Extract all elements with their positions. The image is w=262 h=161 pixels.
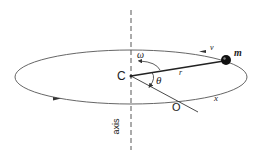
mass-label: m <box>234 48 242 58</box>
reference-point-label: O <box>172 102 181 113</box>
diagram-canvas <box>0 0 262 161</box>
circular-motion-diagram: C m r v θ ω O x axis <box>0 0 262 161</box>
x-axis-label: x <box>214 94 218 103</box>
theta-label: θ <box>156 75 161 86</box>
axis-label: axis <box>112 118 121 134</box>
omega-arc <box>140 61 160 70</box>
reference-line <box>131 76 198 112</box>
radius-line <box>131 61 224 76</box>
center-label: C <box>117 70 126 82</box>
mass-ball <box>221 55 231 65</box>
theta-arc <box>150 73 154 87</box>
radius-label: r <box>179 69 182 77</box>
center-point <box>130 75 133 78</box>
omega-label: ω <box>137 50 144 60</box>
velocity-arrow-icon <box>199 50 206 53</box>
velocity-label: v <box>210 44 214 52</box>
